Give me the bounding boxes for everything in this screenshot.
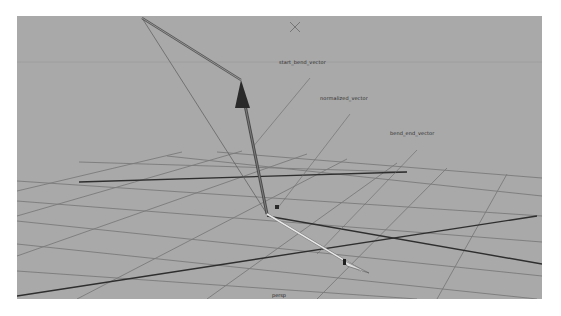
pivot-handle[interactable]	[275, 205, 279, 209]
vector-label: normalized_vector	[320, 95, 368, 101]
grid-line	[217, 152, 542, 178]
grid-line	[17, 244, 537, 299]
camera-name-label: persp	[272, 292, 286, 298]
grid-axes	[17, 172, 542, 296]
grid-line	[17, 271, 417, 299]
arrowhead-up-icon	[235, 80, 250, 108]
grid-line	[437, 174, 507, 299]
top-arm-highlight	[142, 18, 241, 80]
cross-marker-icon[interactable]	[290, 22, 300, 32]
grid-line	[207, 163, 397, 299]
grid-line	[17, 221, 542, 276]
arrowhead-bend-end-icon	[343, 260, 369, 273]
grid-line	[17, 154, 307, 256]
vector-label: start_bend_vector	[279, 59, 326, 65]
grid-line	[17, 181, 542, 216]
ground-grid	[17, 151, 542, 299]
grid-line	[17, 152, 182, 191]
bend-end-handle[interactable]	[343, 259, 346, 265]
start-bend-vector-highlight	[242, 90, 267, 214]
grid-line	[167, 156, 542, 196]
leader-line-start-bend	[252, 78, 310, 148]
3d-viewport[interactable]: start_bend_vectornormalized_vectorbend_e…	[17, 16, 542, 299]
vector-label: bend_end_vector	[390, 130, 434, 136]
grid-axis-line	[17, 216, 537, 296]
grid-line	[77, 159, 347, 299]
